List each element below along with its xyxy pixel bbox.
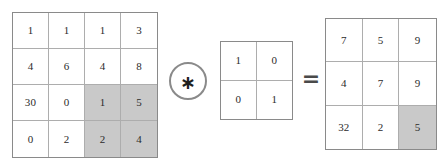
matrix-cell: 30 — [13, 85, 49, 121]
equals-icon: = — [300, 66, 322, 92]
matrix-cell: 6 — [49, 49, 85, 85]
matrix-cell: 4 — [121, 121, 157, 157]
matrix-cell: 5 — [121, 85, 157, 121]
kernel-matrix: 1001 — [220, 41, 293, 120]
matrix-cell: 7 — [326, 19, 363, 62]
matrix-cell: 4 — [326, 62, 363, 105]
input-matrix: 11134648300150224 — [12, 12, 158, 158]
matrix-cell: 4 — [85, 49, 121, 85]
matrix-cell: 3 — [121, 13, 157, 49]
matrix-cell: 1 — [257, 81, 293, 120]
matrix-cell: 4 — [13, 49, 49, 85]
matrix-cell: 1 — [221, 42, 257, 81]
matrix-cell: 0 — [49, 85, 85, 121]
matrix-cell: 7 — [363, 62, 400, 105]
matrix-cell: 8 — [121, 49, 157, 85]
matrix-cell: 1 — [85, 13, 121, 49]
matrix-cell: 0 — [221, 81, 257, 120]
matrix-cell: 1 — [49, 13, 85, 49]
matrix-cell: 0 — [13, 121, 49, 157]
matrix-cell: 5 — [399, 106, 436, 149]
matrix-cell: 32 — [326, 106, 363, 149]
matrix-cell: 2 — [49, 121, 85, 157]
convolution-diagram: 11134648300150224 ∗ 1001 = 7594793225 — [0, 0, 446, 168]
matrix-cell: 9 — [399, 19, 436, 62]
convolution-operator: ∗ — [169, 62, 207, 100]
matrix-cell: 1 — [85, 85, 121, 121]
matrix-cell: 0 — [257, 42, 293, 81]
matrix-cell: 5 — [363, 19, 400, 62]
matrix-cell: 9 — [399, 62, 436, 105]
matrix-cell: 2 — [363, 106, 400, 149]
output-matrix: 7594793225 — [325, 18, 437, 150]
matrix-cell: 2 — [85, 121, 121, 157]
matrix-cell: 1 — [13, 13, 49, 49]
asterisk-in-circle-icon: ∗ — [180, 73, 196, 92]
